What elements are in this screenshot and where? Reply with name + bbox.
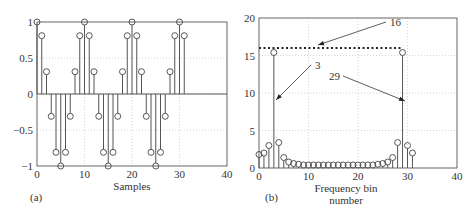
- y-tick-label: 20: [244, 12, 256, 24]
- stem-marker: [72, 69, 78, 75]
- y-tick-label: −0.5: [13, 124, 33, 136]
- stem-marker: [86, 33, 92, 39]
- stem-marker: [172, 33, 178, 39]
- stem-marker: [162, 113, 168, 119]
- stem-marker: [91, 69, 97, 75]
- stem-marker: [148, 149, 154, 155]
- annotation-label: 3: [315, 59, 321, 71]
- stem-marker: [276, 140, 282, 146]
- stem-marker: [409, 150, 415, 156]
- stem-marker: [281, 155, 287, 161]
- stem-marker: [110, 149, 116, 155]
- stem-marker: [67, 113, 73, 119]
- stem-marker: [124, 33, 130, 39]
- x-tick-label: 0: [34, 168, 40, 180]
- stem-marker: [115, 113, 121, 119]
- x-tick-label: 20: [353, 170, 365, 182]
- stem-marker: [63, 149, 69, 155]
- stem-marker: [44, 69, 50, 75]
- stem-marker: [101, 149, 107, 155]
- stem-marker: [48, 113, 54, 119]
- y-tick-label: 10: [244, 87, 256, 99]
- arrowhead-icon: [399, 97, 405, 101]
- x-tick-label: 30: [402, 170, 414, 182]
- y-tick-label: 0: [28, 88, 34, 100]
- stem-marker: [395, 140, 401, 146]
- annotation-arrow: [276, 65, 311, 100]
- x-tick-label: 20: [127, 168, 139, 180]
- stem-marker: [139, 69, 145, 75]
- panel-label: (b): [265, 191, 278, 204]
- x-tick-label: 0: [256, 170, 262, 182]
- stem-marker: [39, 33, 45, 39]
- stem-marker: [266, 143, 272, 149]
- y-tick-label: −1: [21, 160, 33, 172]
- chart-panel-a: 01020304010.50−0.5−1Samples(a): [13, 16, 233, 204]
- y-tick-label: 0: [250, 162, 256, 174]
- x-axis-label: Samples: [113, 180, 150, 192]
- stem-marker: [134, 33, 140, 39]
- x-axis-label: number: [329, 194, 363, 206]
- x-tick-label: 40: [452, 170, 464, 182]
- annotation-label: 29: [329, 70, 341, 82]
- stem-marker: [120, 69, 126, 75]
- stem-marker: [400, 50, 406, 56]
- x-tick-label: 10: [303, 170, 315, 182]
- figure: 01020304010.50−0.5−1Samples(a) 010203040…: [0, 0, 475, 219]
- x-tick-label: 30: [174, 168, 186, 180]
- arrowhead-icon: [318, 41, 324, 45]
- stem-marker: [53, 149, 59, 155]
- stem-marker: [390, 155, 396, 161]
- stem-marker: [77, 33, 83, 39]
- x-tick-label: 40: [222, 168, 234, 180]
- annotation-label: 16: [390, 16, 402, 28]
- stem-marker: [143, 113, 149, 119]
- stem-marker: [158, 149, 164, 155]
- annotation-arrow: [318, 22, 386, 45]
- chart-panel-b: 01020304020151050Frequency binnumber(b)1…: [244, 12, 463, 206]
- stem-marker: [167, 69, 173, 75]
- stem-marker: [271, 50, 277, 56]
- stem-marker: [181, 33, 187, 39]
- y-tick-label: 1: [28, 16, 34, 28]
- x-axis-label: Frequency bin: [314, 182, 378, 194]
- stem-marker: [96, 113, 102, 119]
- y-tick-label: 15: [244, 50, 256, 62]
- y-tick-label: 5: [250, 125, 256, 137]
- annotation-arrow: [343, 76, 405, 101]
- x-tick-label: 10: [79, 168, 91, 180]
- y-tick-label: 0.5: [19, 52, 33, 64]
- panel-label: (a): [30, 191, 43, 204]
